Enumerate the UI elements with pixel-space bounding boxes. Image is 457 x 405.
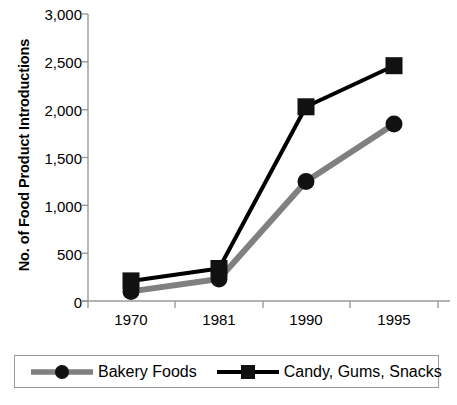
- series-markers-candy-gums-snacks: [123, 57, 403, 289]
- legend-item-candy-gums-snacks: Candy, Gums, Snacks: [215, 356, 442, 387]
- x-tick-label: 1981: [179, 312, 259, 327]
- x-axis-tick-labels: 1970 1981 1990 1995: [0, 312, 457, 334]
- plot-svg: [0, 0, 457, 348]
- legend-label-candy-gums-snacks: Candy, Gums, Snacks: [284, 364, 442, 380]
- series-line-bakery-foods: [131, 124, 394, 292]
- y-tick-marks: [82, 14, 88, 301]
- plot-area: No. of Food Product Introductions 3,000 …: [0, 0, 457, 348]
- legend-marker-square-icon: [215, 362, 281, 382]
- x-tick-label: 1990: [266, 312, 346, 327]
- legend-swatch-candy-gums-snacks: [215, 362, 281, 382]
- data-point-marker: [298, 173, 315, 190]
- chart-legend: Bakery Foods Candy, Gums, Snacks: [14, 355, 439, 388]
- data-point-marker: [386, 57, 403, 74]
- x-tick-label: 1995: [354, 312, 434, 327]
- line-chart: No. of Food Product Introductions 3,000 …: [0, 0, 457, 405]
- data-point-marker: [211, 260, 228, 277]
- legend-item-bakery-foods: Bakery Foods: [29, 356, 197, 387]
- legend-swatch-bakery-foods: [29, 362, 95, 382]
- data-point-marker: [386, 115, 403, 132]
- legend-marker-circle-icon: [29, 362, 95, 382]
- legend-label-bakery-foods: Bakery Foods: [98, 364, 197, 380]
- series-line-candy-gums-snacks: [131, 66, 394, 281]
- x-tick-label: 1970: [91, 312, 171, 327]
- data-point-marker: [123, 272, 140, 289]
- x-tick-marks: [88, 301, 438, 308]
- data-point-marker: [298, 98, 315, 115]
